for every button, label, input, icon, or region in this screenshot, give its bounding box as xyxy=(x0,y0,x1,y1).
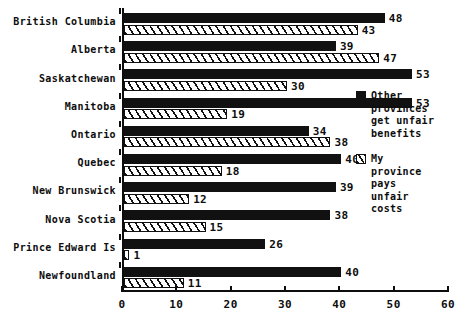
y-axis-tick xyxy=(119,205,121,211)
bar-value-label: 47 xyxy=(383,52,397,65)
hatched-swatch xyxy=(356,154,366,164)
y-axis-tick xyxy=(119,93,121,99)
category-label: Saskatchewan xyxy=(39,74,116,84)
bar-my-province-costs xyxy=(124,25,358,35)
bar-value-label: 1 xyxy=(133,249,140,262)
legend-label: Other provinces get unfair benefits xyxy=(371,90,449,140)
bar-other-provinces-benefits xyxy=(124,239,265,249)
category-label: New Brunswick xyxy=(33,186,116,196)
bar-value-label: 38 xyxy=(334,136,348,149)
x-axis-tick-label: 60 xyxy=(441,298,455,311)
bar-other-provinces-benefits xyxy=(124,210,330,220)
x-axis-tick-label: 10 xyxy=(169,298,183,311)
y-axis-tick xyxy=(119,177,121,183)
category-label: Ontario xyxy=(71,130,116,140)
bar-my-province-costs xyxy=(124,250,129,260)
category-label: Prince Edward Is xyxy=(13,243,116,253)
bar-other-provinces-benefits xyxy=(124,182,336,192)
x-axis-tick-label: 0 xyxy=(118,298,125,311)
y-axis-tick xyxy=(119,121,121,127)
bar-my-province-costs xyxy=(124,81,287,91)
y-axis-tick xyxy=(119,234,121,240)
y-axis-tick xyxy=(119,262,121,268)
bar-other-provinces-benefits xyxy=(124,41,336,51)
x-axis-tick xyxy=(175,286,177,292)
y-axis-tick xyxy=(119,149,121,155)
bar-group: 5330 xyxy=(124,64,450,92)
bar-my-province-costs xyxy=(124,222,206,232)
bar-group: 4011 xyxy=(124,262,450,290)
y-axis-tick xyxy=(119,8,121,14)
bar-my-province-costs xyxy=(124,53,379,63)
x-axis-tick xyxy=(338,286,340,292)
bar-other-provinces-benefits xyxy=(124,267,341,277)
bar-other-provinces-benefits xyxy=(124,13,385,23)
bar-other-provinces-benefits xyxy=(124,69,412,79)
x-axis-tick xyxy=(121,286,123,292)
x-axis-tick xyxy=(447,286,449,292)
bar-value-label: 38 xyxy=(334,209,348,222)
category-label: Alberta xyxy=(71,45,116,55)
bar-value-label: 39 xyxy=(340,40,354,53)
bar-value-label: 11 xyxy=(188,277,202,290)
bar-my-province-costs xyxy=(124,137,330,147)
category-label: Quebec xyxy=(77,158,116,168)
bar-group: 3947 xyxy=(124,36,450,64)
bar-value-label: 30 xyxy=(291,80,305,93)
bar-other-provinces-benefits xyxy=(124,126,309,136)
x-axis-tick-label: 20 xyxy=(224,298,238,311)
bar-value-label: 15 xyxy=(210,221,224,234)
category-label: Manitoba xyxy=(65,102,116,112)
y-axis-tick xyxy=(119,36,121,42)
legend-entry: My province pays unfair costs xyxy=(356,153,449,216)
x-axis-tick xyxy=(393,286,395,292)
x-axis-tick xyxy=(230,286,232,292)
bar-value-label: 18 xyxy=(226,165,240,178)
bar-group: 261 xyxy=(124,234,450,262)
x-axis-tick-label: 50 xyxy=(387,298,401,311)
solid-swatch xyxy=(356,91,366,101)
x-axis-tick-label: 30 xyxy=(278,298,292,311)
category-label: Newfoundland xyxy=(39,271,116,281)
bar-my-province-costs xyxy=(124,194,189,204)
chart-legend: Other provinces get unfair benefitsMy pr… xyxy=(356,90,449,229)
bar-value-label: 48 xyxy=(389,12,403,25)
bar-value-label: 26 xyxy=(269,238,283,251)
legend-label: My province pays unfair costs xyxy=(371,153,449,216)
bar-value-label: 39 xyxy=(340,181,354,194)
bar-other-provinces-benefits xyxy=(124,154,341,164)
category-label: Nova Scotia xyxy=(45,215,116,225)
legend-entry: Other provinces get unfair benefits xyxy=(356,90,449,140)
bar-value-label: 34 xyxy=(313,125,327,138)
bar-value-label: 43 xyxy=(362,24,376,37)
x-axis-tick xyxy=(284,286,286,292)
bar-value-label: 12 xyxy=(193,193,207,206)
bar-value-label: 53 xyxy=(416,68,430,81)
bar-group: 4843 xyxy=(124,8,450,36)
x-axis-tick-label: 40 xyxy=(332,298,346,311)
category-label: British Columbia xyxy=(13,17,116,27)
y-axis-tick xyxy=(119,64,121,70)
bar-value-label: 40 xyxy=(345,266,359,279)
bar-value-label: 19 xyxy=(231,108,245,121)
bar-my-province-costs xyxy=(124,109,227,119)
bar-my-province-costs xyxy=(124,166,222,176)
